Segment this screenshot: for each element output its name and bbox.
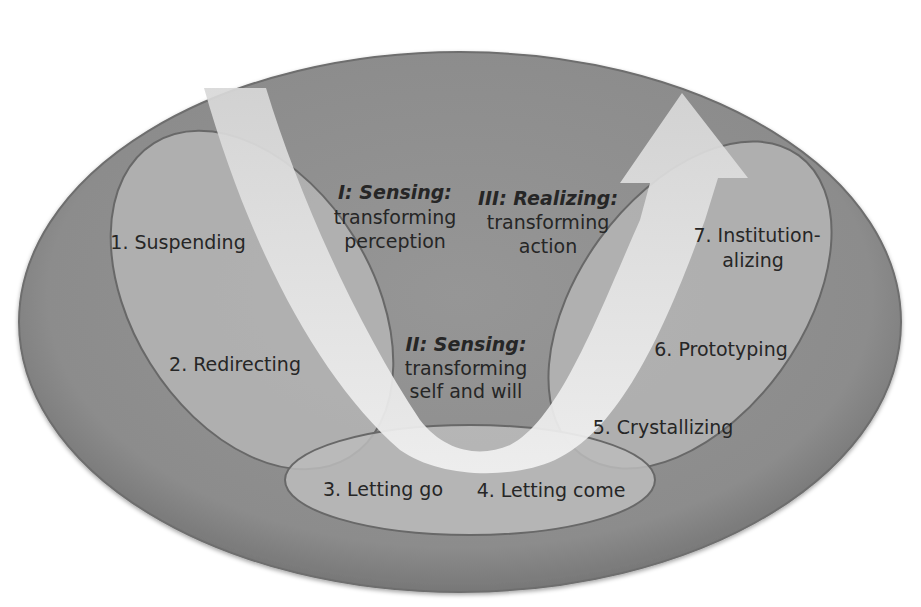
step-2-label: 2. Redirecting: [169, 353, 301, 375]
phase-iii-line1: transforming: [487, 211, 610, 233]
step-4-label: 4. Letting come: [477, 479, 626, 501]
phase-i-line2: perception: [344, 230, 446, 252]
step-5-label: 5. Crystallizing: [593, 416, 734, 438]
phase-iii-title: III: Realizing:: [478, 187, 618, 209]
phase-ii-line1: transforming: [405, 357, 528, 379]
step-3-label: 3. Letting go: [323, 478, 443, 500]
phase-iii-line2: action: [519, 235, 577, 257]
u-process-diagram: I: Sensing: transforming perception II: …: [0, 0, 921, 607]
phase-i-label: I: Sensing: transforming perception: [334, 181, 457, 252]
phase-ii-line2: self and will: [410, 380, 523, 402]
step-1-label: 1. Suspending: [110, 231, 245, 253]
step-7-label-line1: 7. Institution-: [693, 224, 820, 246]
phase-i-line1: transforming: [334, 206, 457, 228]
phase-ii-label: II: Sensing: transforming self and will: [405, 333, 528, 402]
phase-i-title: I: Sensing:: [338, 181, 452, 203]
step-6-label: 6. Prototyping: [654, 338, 788, 360]
step-7-label-line2: alizing: [722, 249, 784, 271]
phase-ii-title: II: Sensing:: [406, 333, 527, 355]
